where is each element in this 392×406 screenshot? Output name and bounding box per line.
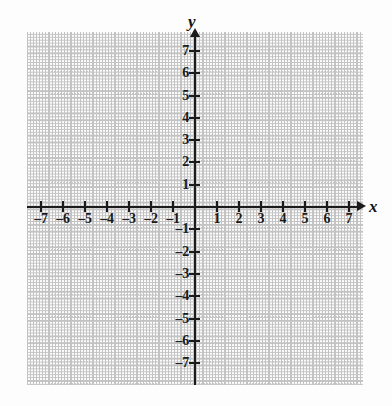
y-axis-tick xyxy=(189,139,200,141)
y-axis-tick-label: –3 xyxy=(169,267,189,281)
y-axis-tick xyxy=(189,228,200,230)
x-axis-tick-label: 5 xyxy=(302,212,309,226)
y-axis-tick-label: 6 xyxy=(169,66,189,80)
x-axis-tick-label: –3 xyxy=(122,212,136,226)
x-axis-tick-label: –2 xyxy=(144,212,158,226)
y-axis-tick-label: 7 xyxy=(169,44,189,58)
x-axis-tick-label: –7 xyxy=(34,212,48,226)
y-axis-tick-label: –4 xyxy=(169,289,189,303)
x-axis-tick-label: –4 xyxy=(100,212,114,226)
x-axis-tick-label: –5 xyxy=(78,212,92,226)
x-axis-tick-label: 1 xyxy=(214,212,221,226)
y-axis-tick xyxy=(189,251,200,253)
x-axis-tick-label: 3 xyxy=(258,212,265,226)
y-axis-tick-label: –7 xyxy=(169,356,189,370)
x-axis-tick-label: 7 xyxy=(346,212,353,226)
y-axis-tick xyxy=(189,295,200,297)
y-axis-tick xyxy=(189,340,200,342)
x-axis-tick-label: 6 xyxy=(324,212,331,226)
y-axis-tick xyxy=(189,95,200,97)
x-axis-tick-label: 4 xyxy=(280,212,287,226)
y-axis-tick xyxy=(189,161,200,163)
y-axis-tick-label: 2 xyxy=(169,155,189,169)
coordinate-plane-figure: –7–6–5–4–3–2–11234567 7654321–1–2–3–4–5–… xyxy=(0,0,392,406)
y-axis-tick xyxy=(189,273,200,275)
y-axis-tick-label: –6 xyxy=(169,334,189,348)
x-axis-tick-label: 2 xyxy=(236,212,243,226)
y-axis-tick xyxy=(189,72,200,74)
y-axis-tick-label: 1 xyxy=(169,178,189,192)
y-axis-tick xyxy=(189,117,200,119)
x-axis-arrowhead-icon xyxy=(357,201,366,211)
y-axis-label: y xyxy=(188,13,196,30)
y-axis-tick-label: –5 xyxy=(169,312,189,326)
y-axis-tick xyxy=(189,50,200,52)
y-axis-tick-label: –1 xyxy=(169,222,189,236)
y-axis-tick xyxy=(189,362,200,364)
y-axis-tick-label: 5 xyxy=(169,89,189,103)
y-axis-tick-label: –2 xyxy=(169,245,189,259)
y-axis-tick xyxy=(189,184,200,186)
y-axis-tick-label: 4 xyxy=(169,111,189,125)
y-axis-tick xyxy=(189,318,200,320)
x-axis-tick-label: –6 xyxy=(56,212,70,226)
x-axis-label: x xyxy=(369,198,378,215)
y-axis-line xyxy=(194,33,196,385)
y-axis-tick-label: 3 xyxy=(169,133,189,147)
